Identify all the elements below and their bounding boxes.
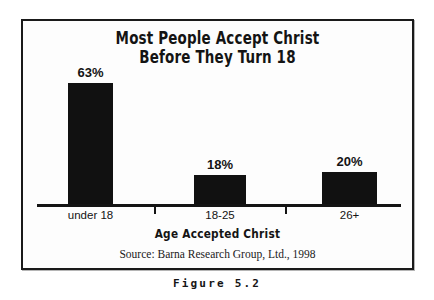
x-axis-tick [154, 207, 156, 214]
x-axis-line [37, 204, 401, 207]
bar-category-26-plus: 26+ [322, 209, 377, 221]
figure-box: Most People Accept Christ Before They Tu… [21, 19, 414, 270]
bar-value-18-25: 18% [194, 157, 246, 172]
bar-26-plus [322, 172, 377, 204]
source-note: Source: Barna Research Group, Ltd., 1998 [23, 248, 412, 260]
bar-18-25 [194, 175, 246, 204]
bar-value-under-18: 63% [68, 65, 113, 80]
x-axis-title: Age Accepted Christ [42, 226, 392, 241]
bar-category-18-25: 18-25 [184, 209, 256, 221]
figure-caption: Figure 5.2 [0, 277, 434, 290]
bar-under-18 [68, 83, 113, 204]
bar-category-under-18: under 18 [48, 209, 133, 221]
x-axis-tick [285, 207, 287, 214]
bar-value-26-plus: 20% [322, 154, 377, 169]
